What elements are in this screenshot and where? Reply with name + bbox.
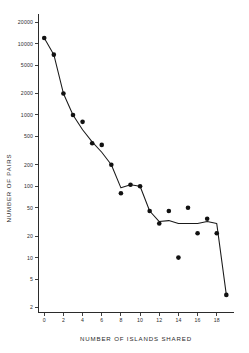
data-point (224, 293, 229, 298)
x-axis-title: NUMBER OF ISLANDS SHARED (80, 335, 192, 342)
x-tick-label: 16 (195, 317, 201, 323)
data-point (61, 91, 66, 96)
data-points (42, 36, 229, 298)
data-point (167, 209, 172, 214)
data-point (52, 52, 57, 57)
data-point (205, 216, 210, 221)
x-tick-label: 4 (81, 317, 84, 323)
y-tick-label: 20000 (18, 19, 33, 25)
y-axis-ticks: 251020501002005001000200050001000020000 (18, 19, 39, 310)
y-tick-label: 10 (27, 255, 33, 261)
y-axis-title: NUMBER OF PAIRS (5, 154, 12, 223)
data-point (147, 209, 152, 214)
data-point (42, 36, 47, 41)
x-tick-label: 14 (175, 317, 181, 323)
x-tick-label: 12 (156, 317, 162, 323)
y-tick-label: 10000 (18, 41, 33, 47)
x-tick-label: 8 (119, 317, 122, 323)
data-point (138, 184, 143, 189)
x-tick-label: 2 (62, 317, 65, 323)
y-tick-label: 1000 (21, 112, 33, 118)
data-point (109, 163, 114, 168)
y-tick-label: 500 (24, 133, 33, 139)
data-point (176, 255, 181, 260)
y-tick-label: 200 (24, 162, 33, 168)
data-point (157, 221, 162, 226)
data-point (128, 182, 133, 187)
data-point (119, 191, 124, 196)
x-tick-label: 10 (137, 317, 143, 323)
y-tick-label: 2 (30, 304, 33, 310)
scatter-plot: 251020501002005001000200050001000020000 … (0, 0, 249, 353)
x-axis-ticks: 024681012141618 (43, 313, 220, 324)
y-tick-label: 20 (27, 233, 33, 239)
data-point (71, 113, 76, 118)
data-point (186, 205, 191, 210)
x-tick-label: 0 (43, 317, 46, 323)
y-tick-label: 2000 (21, 90, 33, 96)
y-tick-label: 5 (30, 276, 33, 282)
x-tick-label: 18 (214, 317, 220, 323)
data-point (90, 141, 95, 146)
chart-figure: 251020501002005001000200050001000020000 … (0, 0, 249, 353)
data-point (195, 231, 200, 236)
data-point (214, 231, 219, 236)
y-tick-label: 100 (24, 183, 33, 189)
y-tick-label: 5000 (21, 62, 33, 68)
x-tick-label: 6 (100, 317, 103, 323)
data-point (99, 143, 104, 148)
data-point (80, 120, 85, 125)
data-polyline (44, 38, 226, 295)
y-tick-label: 50 (27, 205, 33, 211)
